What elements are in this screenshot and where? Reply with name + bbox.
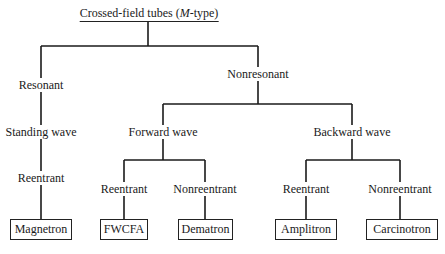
node-bw-nonreentrant: Nonreentrant — [367, 182, 432, 196]
diagram-title: Crossed-field tubes (M-type) — [80, 6, 219, 22]
node-fw-nonreentrant: Nonreentrant — [172, 182, 237, 196]
leaf-magnetron: Magnetron — [10, 219, 72, 240]
node-nonresonant: Nonresonant — [226, 67, 289, 81]
leaf-fwcfa: FWCFA — [100, 219, 148, 240]
node-backward-wave: Backward wave — [313, 125, 392, 139]
node-forward-wave: Forward wave — [128, 125, 199, 139]
leaf-amplitron: Amplitron — [275, 219, 337, 240]
leaf-carcinotron: Carcinotron — [366, 219, 438, 240]
node-bw-reentrant: Reentrant — [282, 182, 331, 196]
node-resonant: Resonant — [18, 78, 65, 92]
title-suffix: -type) — [190, 6, 219, 20]
node-standing-wave: Standing wave — [5, 125, 78, 139]
leaf-dematron: Dematron — [178, 219, 233, 240]
title-italic: M — [180, 6, 190, 20]
node-reentrant-left: Reentrant — [17, 171, 66, 185]
node-fw-reentrant: Reentrant — [100, 182, 149, 196]
title-prefix: Crossed-field tubes ( — [80, 6, 180, 20]
